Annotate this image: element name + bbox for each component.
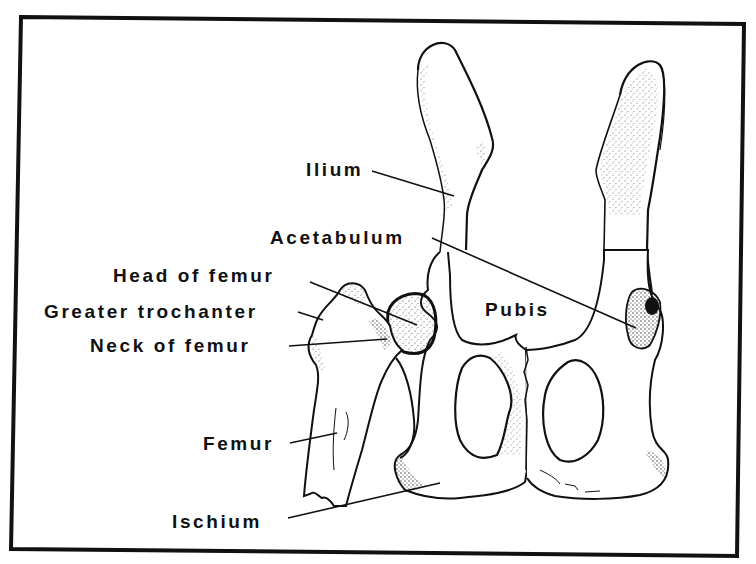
label-ilium: Ilium xyxy=(306,160,363,179)
label-pubis: Pubis xyxy=(485,300,550,319)
left-hemipelvis-shape xyxy=(394,252,527,499)
label-ischium: Ischium xyxy=(172,512,262,531)
label-greater-trochanter: Greater trochanter xyxy=(44,302,258,321)
label-neck-of-femur: Neck of femur xyxy=(90,336,251,355)
label-head-of-femur: Head of femur xyxy=(113,266,275,285)
label-femur: Femur xyxy=(203,434,274,453)
left-ilium-shape xyxy=(417,43,493,252)
label-acetabulum: Acetabulum xyxy=(270,228,405,247)
right-hemipelvis-shape xyxy=(526,250,668,499)
